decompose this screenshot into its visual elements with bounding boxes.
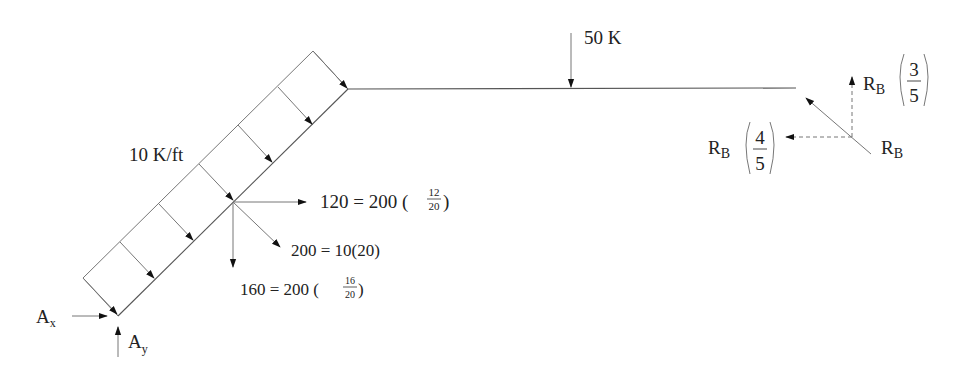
resultant-arrow	[233, 202, 280, 247]
load-arrow	[278, 87, 312, 124]
svg-text:12: 12	[429, 186, 440, 198]
ax-label: Ax	[36, 306, 56, 330]
vertical-component-fraction: 16 20 )	[343, 275, 364, 300]
svg-text:20: 20	[345, 289, 355, 300]
svg-text:5: 5	[755, 153, 765, 174]
horizontal-component-label: 120 = 200 (	[320, 191, 408, 213]
rb-horizontal-fraction: 4 5	[746, 122, 774, 174]
rb-label: RB	[881, 137, 903, 161]
rb-reaction	[786, 77, 871, 154]
load-arrow	[238, 125, 272, 162]
resultant-label: 200 = 10(20)	[291, 241, 380, 260]
load-arrow	[120, 242, 154, 278]
svg-text:4: 4	[755, 127, 765, 148]
rb-vertical-label: RB	[863, 73, 885, 97]
load-arrow	[83, 278, 117, 314]
horizontal-member	[348, 88, 796, 89]
svg-text:20: 20	[429, 200, 441, 212]
load-arrow	[313, 51, 347, 88]
distributed-load-label: 10 K/ft	[129, 144, 184, 165]
horizontal-component-fraction: 12 20 )	[427, 186, 449, 213]
rb-vertical-fraction: 3 5	[900, 54, 928, 106]
load-arrow	[159, 204, 193, 240]
vertical-component-label: 160 = 200 (	[240, 280, 319, 299]
rb-arrow	[806, 98, 871, 154]
rb-horizontal-label: RB	[708, 137, 730, 161]
ay-label: Ay	[128, 331, 148, 356]
svg-text:3: 3	[909, 59, 919, 80]
svg-text:): )	[358, 280, 364, 299]
load-arrow	[199, 164, 233, 200]
point-load-label: 50 K	[584, 27, 622, 48]
distributed-load-block	[83, 51, 348, 316]
svg-text:5: 5	[909, 85, 919, 106]
svg-text:16: 16	[345, 275, 355, 286]
free-body-diagram: 10 K/ft 120 = 200 ( 12 20 ) 200 = 10(20)…	[0, 0, 961, 375]
svg-text:): )	[443, 191, 449, 213]
